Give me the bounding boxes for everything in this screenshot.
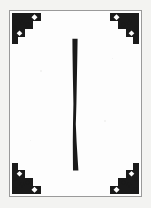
corner-ornament-top-left — [12, 13, 48, 49]
card-root — [0, 0, 151, 208]
tapered-stroke-icon — [72, 39, 78, 171]
corner-ornament-bottom-left — [12, 158, 48, 194]
corner-ornament-bottom-right — [103, 158, 139, 194]
center-mark — [56, 38, 96, 172]
paper-speckle — [112, 58, 113, 59]
paper-speckle — [30, 140, 31, 141]
paper-speckle — [104, 120, 106, 122]
corner-ornament-top-right — [103, 13, 139, 49]
paper-speckle — [40, 70, 42, 72]
